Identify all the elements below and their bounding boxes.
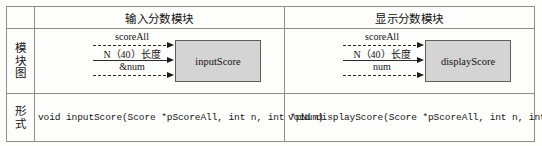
arrow-label: &num <box>93 61 171 72</box>
diagram-cell-display: scoreAll N（40）长度 num <box>285 29 535 94</box>
diagram-cell-input: scoreAll N（40）长度 &num <box>35 29 285 94</box>
module-diagram-input: scoreAll N（40）长度 &num <box>35 29 285 93</box>
arrow-shaft <box>343 75 421 76</box>
module-diagram-display: scoreAll N（40）长度 num <box>285 29 535 93</box>
row-label-module-diagram-stack: 模 块 图 <box>7 42 34 81</box>
header-cell-display-module: 显示分数模块 <box>285 7 535 29</box>
row-label-char: 块 <box>7 55 34 68</box>
row-label-char: 模 <box>7 42 34 55</box>
module-specification-figure: 输入分数模块 显示分数模块 模 块 图 <box>0 0 542 146</box>
arrow-head-icon <box>167 72 174 78</box>
table-row-signature: 形 式 void inputScore(Score *pScoreAll, in… <box>7 94 535 142</box>
row-label-char: 式 <box>7 118 34 131</box>
row-label-module-diagram: 模 块 图 <box>7 29 35 94</box>
row-label-char: 形 <box>7 105 34 118</box>
signature-cell-display: void displayScore(Score *pScoreAll, int … <box>285 94 535 142</box>
arrow-label: num <box>343 61 421 72</box>
header-cell-input-module: 输入分数模块 <box>35 7 285 29</box>
row-label-form-stack: 形 式 <box>7 105 34 131</box>
row-label-empty <box>7 7 35 29</box>
arrow-label: N（40）长度 <box>343 46 421 61</box>
row-label-form: 形 式 <box>7 94 35 142</box>
signature-cell-input: void inputScore(Score *pScoreAll, int n,… <box>35 94 285 142</box>
module-title-input: 输入分数模块 <box>35 10 284 26</box>
module-title-display: 显示分数模块 <box>285 10 534 26</box>
module-box-input: inputScore <box>175 40 261 82</box>
arrow-label: N（40）长度 <box>93 46 171 61</box>
function-signature-display: void displayScore(Score *pScoreAll, int … <box>285 112 534 123</box>
table-row-module-diagram: 模 块 图 scoreAll N（40）长度 <box>7 29 535 94</box>
arrow-label: scoreAll <box>343 31 421 42</box>
module-spec-table: 输入分数模块 显示分数模块 模 块 图 <box>6 6 535 142</box>
row-label-char: 图 <box>7 67 34 80</box>
function-signature-input: void inputScore(Score *pScoreAll, int n,… <box>35 112 284 123</box>
module-box-display: displayScore <box>425 40 511 82</box>
arrow-head-icon <box>417 72 424 78</box>
arrow-shaft <box>93 75 171 76</box>
table-header-row: 输入分数模块 显示分数模块 <box>7 7 535 29</box>
arrow-label: scoreAll <box>93 31 171 42</box>
